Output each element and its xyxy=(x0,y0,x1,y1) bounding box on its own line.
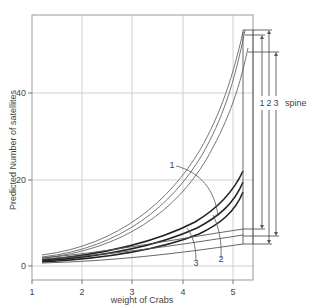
bracket-title: spine xyxy=(285,98,307,108)
arrow-up-icon xyxy=(267,30,271,34)
annotation-1: 1 xyxy=(169,160,174,170)
bracket-label-3: 3 xyxy=(273,98,278,108)
y-axis-label: Predicted Number of satellites xyxy=(8,89,18,210)
x-tick-5: 5 xyxy=(230,287,235,297)
bracket-label-1: 1 xyxy=(259,98,264,108)
x-axis-label: weight of Crabs xyxy=(110,295,174,305)
x-tick-1: 1 xyxy=(29,287,34,297)
axis-ticks xyxy=(28,93,233,284)
plot-frame xyxy=(32,15,253,280)
arrow-up-icon xyxy=(274,52,278,56)
x-tick-4: 4 xyxy=(180,287,185,297)
arrow-down-icon xyxy=(260,225,264,229)
x-tick-2: 2 xyxy=(79,287,84,297)
y-tick-0: 0 xyxy=(21,261,26,271)
grid xyxy=(32,15,253,280)
curve-upper-1 xyxy=(42,32,243,255)
annotation-2: 2 xyxy=(218,254,223,264)
bracket-label-2: 2 xyxy=(266,98,271,108)
spine-brackets xyxy=(243,30,279,244)
annotation-3: 3 xyxy=(193,258,198,268)
arrow-up-icon xyxy=(260,35,264,39)
chart: 1 2 3 4 5 0 20 40 weight of Crabs Predic… xyxy=(0,0,311,307)
arrow-down-icon xyxy=(274,232,278,236)
curve-upper-3 xyxy=(42,48,248,258)
arrow-down-icon xyxy=(267,240,271,244)
leader-3 xyxy=(187,228,196,260)
